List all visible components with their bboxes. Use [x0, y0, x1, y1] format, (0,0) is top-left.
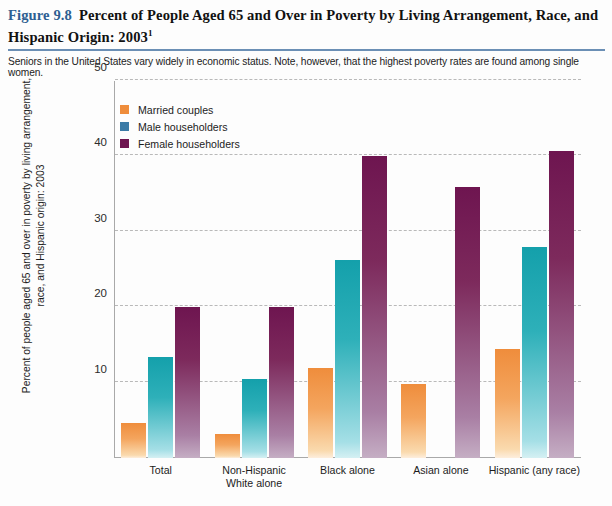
- bar: [242, 379, 267, 458]
- legend-swatch-icon: [120, 139, 129, 148]
- bar: [121, 423, 146, 458]
- bar: [335, 260, 360, 458]
- y-axis-tick-label: 50: [69, 61, 107, 73]
- legend-item: Male householders: [120, 119, 240, 134]
- bar: [495, 349, 520, 458]
- bar: [308, 368, 333, 458]
- bar: [175, 307, 200, 458]
- legend-item: Female householders: [120, 136, 240, 151]
- x-axis-labels: TotalNon-HispanicWhite aloneBlack aloneA…: [114, 464, 581, 504]
- legend-label: Male householders: [138, 121, 228, 133]
- title-divider: [8, 49, 605, 51]
- chart-area: Percent of people aged 65 and over in po…: [0, 72, 612, 506]
- x-axis-tick-label-line: Hispanic (any race): [488, 464, 581, 477]
- bar-group: [394, 81, 487, 458]
- legend-item: Married couples: [120, 102, 240, 117]
- legend-swatch-icon: [120, 105, 129, 114]
- gridline: [115, 79, 581, 80]
- legend-swatch-icon: [120, 122, 129, 131]
- title-footnote-marker: 1: [148, 28, 153, 38]
- x-axis-tick-label: Hispanic (any race): [488, 464, 581, 477]
- y-axis-tick-label: 20: [69, 287, 107, 299]
- page-title: Figure 9.8Percent of People Aged 65 and …: [8, 6, 604, 46]
- x-axis-tick-label-line: Non-Hispanic: [207, 464, 300, 477]
- bar: [549, 151, 574, 458]
- bar: [148, 357, 173, 458]
- x-axis-tick-label-line: Black alone: [301, 464, 394, 477]
- bar-group: [488, 81, 581, 458]
- chart-legend: Married couplesMale householdersFemale h…: [120, 102, 240, 153]
- figure-header: Figure 9.8Percent of People Aged 65 and …: [8, 6, 604, 51]
- x-axis-tick-label: Black alone: [301, 464, 394, 477]
- legend-label: Female householders: [138, 138, 240, 150]
- bar-group: [301, 81, 394, 458]
- x-axis-tick-label-line: Total: [114, 464, 207, 477]
- figure-page: Figure 9.8Percent of People Aged 65 and …: [0, 0, 612, 506]
- bar: [522, 247, 547, 458]
- y-axis-title-line1: Percent of people aged 65 and over in po…: [21, 182, 32, 393]
- bar: [269, 307, 294, 458]
- x-axis-tick-label: Total: [114, 464, 207, 477]
- x-axis-tick-label-line: Asian alone: [394, 464, 487, 477]
- bar: [401, 384, 426, 458]
- legend-label: Married couples: [138, 104, 213, 116]
- figure-title-text: Percent of People Aged 65 and Over in Po…: [8, 7, 598, 45]
- bar: [455, 187, 480, 458]
- x-axis-tick-label-line: White alone: [207, 477, 300, 490]
- bar: [362, 156, 387, 458]
- figure-number: Figure 9.8: [8, 7, 72, 23]
- y-axis-tick-label: 30: [69, 212, 107, 224]
- y-axis-title: Percent of people aged 65 and over in po…: [20, 71, 47, 401]
- x-axis-tick-label: Asian alone: [394, 464, 487, 477]
- y-axis-tick-label: 10: [69, 363, 107, 375]
- y-axis-tick-label: 40: [69, 136, 107, 148]
- bar: [215, 434, 240, 458]
- x-axis-tick-label: Non-HispanicWhite alone: [207, 464, 300, 490]
